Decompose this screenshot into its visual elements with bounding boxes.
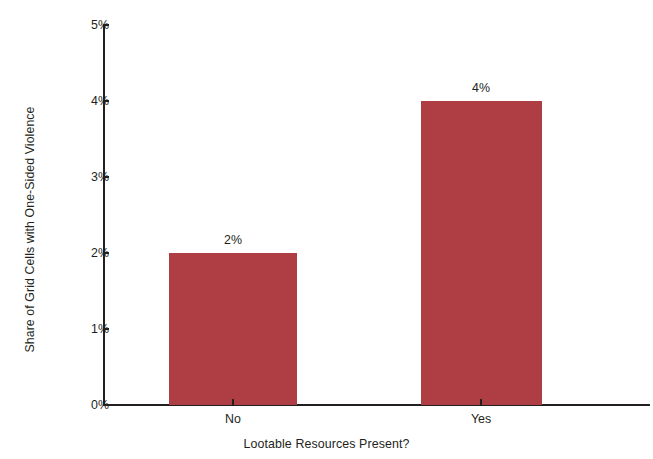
x-axis-title: Lootable Resources Present? [0, 437, 653, 451]
y-axis-title: Share of Grid Cells with One-Sided Viole… [20, 0, 40, 459]
y-axis-tick-mark [103, 176, 109, 178]
y-axis-line [103, 25, 105, 406]
x-axis-tick-label-yes: Yes [471, 412, 491, 426]
bar-no[interactable] [169, 253, 297, 405]
bar-value-label-yes: 4% [472, 81, 490, 95]
bar-chart: Share of Grid Cells with One-Sided Viole… [0, 0, 653, 459]
y-axis-tick-mark [103, 252, 109, 254]
y-axis-tick-mark [103, 100, 109, 102]
x-axis-tick-mark-yes [480, 399, 482, 405]
x-axis-tick-mark-no [232, 399, 234, 405]
bar-yes[interactable] [421, 101, 542, 405]
y-axis-tick-mark [103, 24, 109, 26]
bar-value-label-no: 2% [224, 233, 242, 247]
x-axis-tick-label-no: No [225, 412, 241, 426]
y-axis-tick-mark [103, 328, 109, 330]
